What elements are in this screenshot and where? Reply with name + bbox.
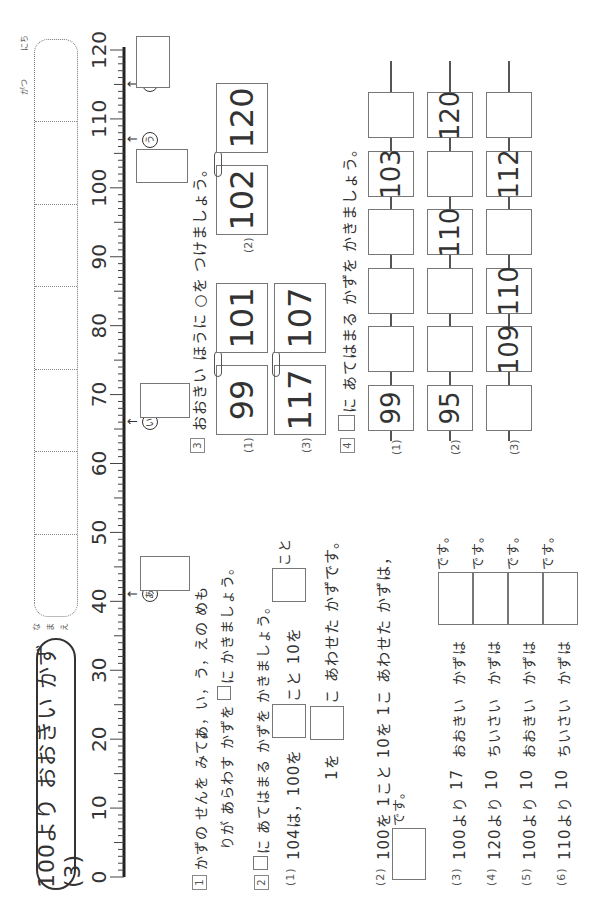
tail-text: かずは <box>448 640 468 685</box>
tail-text: かずは <box>483 640 503 685</box>
number-card-left[interactable]: 117 <box>274 365 326 435</box>
question-number: 3 <box>190 438 205 453</box>
page-title: 100より おおきい かず(3) <box>36 638 76 890</box>
q2-p1-text-e: こ あわせた かずです。 <box>320 533 341 704</box>
q2-p1-text-a: 104は，100を <box>282 749 303 860</box>
answer-box[interactable] <box>310 706 344 740</box>
name-cell[interactable] <box>35 534 77 616</box>
problem-number: (5) <box>520 867 533 886</box>
sequence-box[interactable] <box>486 93 532 139</box>
answer-box-a[interactable] <box>140 556 190 591</box>
sequence-box[interactable]: 110 <box>486 268 532 314</box>
answer-box[interactable] <box>473 572 508 625</box>
question-number: 1 <box>192 875 207 890</box>
q1-line1: かずの せんを みて， <box>190 725 210 870</box>
direction-text: おおきい <box>448 698 468 758</box>
worksheet-page: 100より おおきい かず(3) な ま え がつ にち 01020304050… <box>0 0 604 913</box>
q3-instruction: おおきい ほうに ○を つけましょう。 <box>188 161 209 431</box>
name-label-char: え <box>58 620 72 634</box>
answer-box-u[interactable] <box>136 149 188 183</box>
base-text: 120より <box>483 796 504 860</box>
sequence-box[interactable] <box>368 268 414 314</box>
answer-box[interactable] <box>272 568 306 602</box>
sequence-box[interactable] <box>427 268 473 314</box>
sequence-box[interactable] <box>368 210 414 256</box>
tick-label: 90 <box>87 237 111 277</box>
answer-box[interactable] <box>543 572 578 625</box>
answer-box[interactable] <box>438 572 473 625</box>
tail-text: かずは <box>553 640 573 685</box>
sequence-box[interactable] <box>427 151 473 197</box>
name-cell[interactable] <box>35 286 77 368</box>
q4-instruction: に あてはまる かずを かきましょう。 <box>338 141 359 413</box>
sequence-box[interactable] <box>486 385 532 431</box>
number-card-right[interactable]: 120 <box>216 83 268 153</box>
answer-box[interactable] <box>272 704 306 738</box>
sequence-box[interactable]: 110 <box>427 210 473 256</box>
amount-text: 17 <box>448 769 466 790</box>
q2-p2-text-b: です。 <box>388 785 407 826</box>
problem-number: (3) <box>450 867 463 886</box>
sequence-box[interactable]: 99 <box>368 385 414 431</box>
blank-square-icon <box>217 686 231 700</box>
arrow-up-icon: ↑ <box>126 415 139 428</box>
date-cell[interactable] <box>35 40 77 121</box>
name-cell[interactable] <box>35 369 77 451</box>
problem-number: (1) <box>284 867 297 886</box>
answer-box-i[interactable] <box>140 383 190 418</box>
problem-number: (2) <box>242 237 255 253</box>
number-card-right[interactable]: 101 <box>216 283 268 353</box>
sequence-box[interactable] <box>486 210 532 256</box>
problem-number: (3) <box>508 439 521 455</box>
sequence-box[interactable]: 109 <box>486 327 532 373</box>
end-text: です。 <box>502 529 521 570</box>
sequence-box[interactable]: 112 <box>486 151 532 197</box>
question-number: 4 <box>340 438 355 453</box>
sequence-box[interactable] <box>368 93 414 139</box>
name-label: な ま え <box>30 620 72 634</box>
tick-label: 60 <box>87 444 111 484</box>
sequence-box[interactable] <box>427 327 473 373</box>
day-label: にち <box>18 35 29 51</box>
problem-number: (1) <box>390 439 403 455</box>
answer-box-e[interactable] <box>136 36 170 88</box>
name-cell[interactable] <box>35 121 77 203</box>
answer-box[interactable] <box>508 572 543 625</box>
sequence-box[interactable]: 95 <box>427 385 473 431</box>
tick-label: 0 <box>87 857 111 897</box>
q2-p1-text-d: 1を <box>320 753 341 780</box>
arrow-up-icon: ↑ <box>126 587 139 600</box>
q2-instruction: に あてはまる かずを かきましょう。 <box>252 599 272 854</box>
tick-label: 100 <box>87 168 111 208</box>
end-text: です。 <box>537 529 556 570</box>
q1-line2-b: に かきましょう。 <box>216 560 236 684</box>
tick-label: 120 <box>87 30 111 70</box>
sequence-box[interactable] <box>368 327 414 373</box>
blank-square-icon <box>253 856 268 870</box>
tick-label: 10 <box>87 788 111 828</box>
amount-text: 10 <box>518 769 536 790</box>
name-cell[interactable] <box>35 451 77 533</box>
direction-text: ちいさい <box>483 698 503 758</box>
sequence-box[interactable]: 103 <box>368 151 414 197</box>
tick-label: 50 <box>87 512 111 552</box>
base-text: 100より <box>448 796 469 860</box>
tick-label: 110 <box>87 99 111 139</box>
number-card-right[interactable]: 107 <box>274 283 326 353</box>
direction-text: ちいさい <box>553 698 573 758</box>
q1-line2-a: りが あらわす かずを <box>216 704 236 850</box>
name-cell[interactable] <box>35 204 77 286</box>
tick-label: 20 <box>87 719 111 759</box>
sequence-box[interactable]: 120 <box>427 93 473 139</box>
marker-u: う <box>142 132 158 148</box>
end-text: です。 <box>432 529 451 570</box>
q2-p1-text-b: こと 10を <box>282 627 303 702</box>
problem-number: (4) <box>485 867 498 886</box>
number-card-left[interactable]: 99 <box>216 365 268 435</box>
answer-box[interactable] <box>392 828 426 880</box>
name-label-char: ま <box>44 620 58 634</box>
tick-label: 80 <box>87 306 111 346</box>
q2-p1-text-c: こと <box>274 538 293 566</box>
number-card-left[interactable]: 102 <box>216 165 268 235</box>
name-field[interactable] <box>34 39 78 617</box>
